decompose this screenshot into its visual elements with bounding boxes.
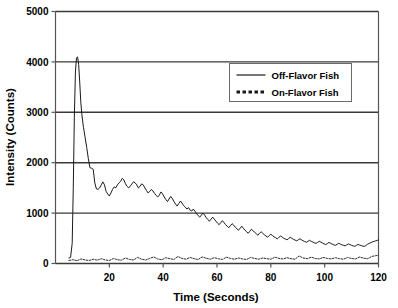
y-axis-title: Intensity (Counts): [4, 88, 16, 186]
x-tick-label-100: 100: [316, 272, 333, 283]
y-tick-label-3000: 3000: [26, 107, 49, 118]
x-axis-title: Time (Seconds): [173, 291, 259, 303]
x-tick-label-120: 120: [370, 272, 387, 283]
y-tick-label-2000: 2000: [26, 157, 49, 168]
y-tick-label-0: 0: [43, 258, 49, 269]
chart-figure: 010002000300040005000 20406080100120 Off…: [0, 0, 398, 308]
intensity-vs-time-line-chart: 010002000300040005000 20406080100120 Off…: [0, 0, 398, 308]
x-tick-label-40: 40: [158, 272, 170, 283]
legend-label-off-flavor-fish: Off-Flavor Fish: [272, 70, 340, 81]
x-tick-label-20: 20: [104, 272, 116, 283]
y-tick-label-4000: 4000: [26, 57, 49, 68]
x-tick-label-80: 80: [265, 272, 277, 283]
chart-legend: Off-Flavor FishOn-Flavor Fish: [230, 64, 352, 102]
x-tick-label-60: 60: [211, 272, 223, 283]
legend-label-on-flavor-fish: On-Flavor Fish: [272, 87, 339, 98]
chart-background: [0, 0, 398, 308]
y-tick-label-5000: 5000: [26, 6, 49, 17]
y-tick-label-1000: 1000: [26, 208, 49, 219]
